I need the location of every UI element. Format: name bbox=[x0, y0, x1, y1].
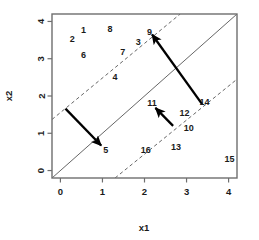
y-axis-label: x2 bbox=[3, 91, 14, 102]
x-tick-label: 4 bbox=[226, 186, 232, 197]
plot-canvas: 01234 01234 12345678910111213141516 x1 x… bbox=[0, 0, 259, 240]
y-tick-label: 3 bbox=[36, 56, 47, 61]
data-point-label-1: 1 bbox=[81, 25, 86, 35]
lower-dashed-diagonal bbox=[115, 79, 237, 178]
scatter-plot-figure: 01234 01234 12345678910111213141516 x1 x… bbox=[0, 0, 259, 240]
data-point-label-2: 2 bbox=[70, 34, 75, 44]
x-tick-label: 1 bbox=[100, 186, 106, 197]
y-tick-label: 4 bbox=[36, 18, 47, 24]
data-point-label-9: 9 bbox=[147, 27, 152, 37]
y-tick-label: 0 bbox=[36, 168, 47, 173]
x-tick-label: 0 bbox=[58, 186, 63, 197]
data-point-label-11: 11 bbox=[147, 98, 157, 108]
arrow-to-11 bbox=[155, 108, 173, 126]
y-axis-ticks: 01234 bbox=[36, 18, 53, 173]
data-point-label-10: 10 bbox=[184, 123, 194, 133]
arrow-to-5 bbox=[65, 109, 101, 146]
data-point-label-15: 15 bbox=[224, 154, 234, 164]
x-tick-label: 3 bbox=[184, 186, 189, 197]
data-point-labels: 12345678910111213141516 bbox=[70, 24, 235, 164]
arrow-to-9 bbox=[152, 35, 202, 105]
x-axis-label: x1 bbox=[139, 222, 150, 233]
x-tick-label: 2 bbox=[142, 186, 147, 197]
y-tick-label: 2 bbox=[36, 93, 47, 98]
data-point-label-3: 3 bbox=[136, 37, 141, 47]
data-point-label-5: 5 bbox=[103, 145, 108, 155]
y-tick-label: 1 bbox=[36, 130, 47, 136]
data-point-label-7: 7 bbox=[120, 47, 125, 57]
x-axis-ticks: 01234 bbox=[58, 178, 232, 197]
data-point-label-16: 16 bbox=[141, 145, 151, 155]
data-point-label-6: 6 bbox=[81, 50, 86, 60]
data-point-label-12: 12 bbox=[179, 108, 189, 118]
data-point-label-14: 14 bbox=[200, 97, 210, 107]
data-point-label-8: 8 bbox=[108, 24, 113, 34]
data-point-label-13: 13 bbox=[171, 142, 181, 152]
data-point-label-4: 4 bbox=[113, 72, 118, 82]
upper-dashed-diagonal bbox=[52, 14, 180, 119]
